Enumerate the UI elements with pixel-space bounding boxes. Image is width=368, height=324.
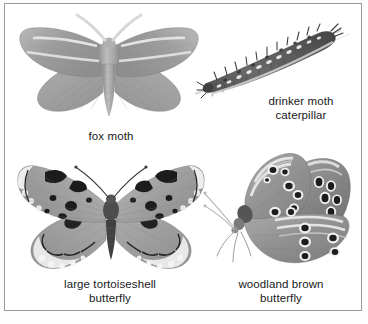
figure-large-tortoiseshell-butterfly <box>11 148 211 276</box>
caption-large-tortoiseshell-butterfly: large tortoiseshell butterfly <box>30 278 190 305</box>
caption-woodland-brown-butterfly: woodland brown butterfly <box>201 278 361 305</box>
figure-drinker-moth-caterpillar <box>191 18 361 98</box>
illustration-plate: fox moth <box>0 0 368 324</box>
large-tortoiseshell-butterfly-illustration <box>11 148 211 276</box>
figure-fox-moth <box>11 6 207 128</box>
figure-woodland-brown-butterfly <box>201 140 363 276</box>
fox-moth-illustration <box>11 6 207 128</box>
caption-fox-moth: fox moth <box>51 130 171 144</box>
caption-drinker-moth-caterpillar: drinker moth caterpillar <box>245 95 357 122</box>
drinker-moth-caterpillar-illustration <box>191 18 361 98</box>
woodland-brown-butterfly-illustration <box>201 140 363 276</box>
plate-frame: fox moth <box>4 3 362 311</box>
